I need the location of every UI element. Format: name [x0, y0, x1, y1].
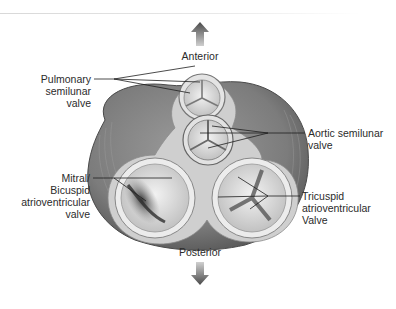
pulmonary-valve — [179, 74, 225, 120]
pulmonary-valve-label: Pulmonary semilunar valve — [20, 73, 91, 109]
arrow-up-icon — [191, 22, 209, 46]
anterior-label: Anterior — [170, 50, 230, 62]
tricuspid-valve-label: Tricuspid atrioventricular Valve — [302, 190, 371, 226]
tricuspid-valve — [212, 158, 292, 238]
aortic-valve — [183, 115, 233, 165]
posterior-label: Posterior — [168, 246, 232, 258]
heart-valves-diagram — [0, 0, 396, 309]
mitral-valve — [115, 158, 195, 238]
arrow-down-icon — [191, 262, 209, 285]
mitral-valve-label: Mitral/ Bicuspid atrioventricular valve — [2, 172, 90, 220]
aortic-valve-label: Aortic semilunar valve — [308, 127, 383, 151]
